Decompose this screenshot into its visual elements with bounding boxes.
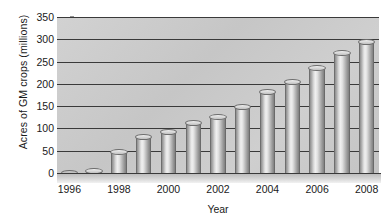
bar-body — [235, 107, 250, 173]
gridline — [57, 62, 379, 63]
bar-top-cap — [110, 149, 127, 155]
axis-base-shadow — [57, 174, 381, 183]
x-axis-line — [57, 173, 381, 174]
bar-top-cap — [234, 104, 251, 110]
bar — [111, 149, 126, 174]
x-tick-label: 2002 — [206, 183, 229, 195]
bar-body — [359, 42, 374, 173]
bar — [260, 89, 275, 173]
y-tick-label: 100 — [20, 122, 54, 134]
y-tick-label: 250 — [20, 56, 54, 68]
bar — [309, 65, 324, 173]
bar-body — [186, 123, 201, 173]
x-tick-label: 1996 — [58, 183, 81, 195]
bar-body — [136, 137, 151, 173]
gridline — [57, 17, 379, 18]
x-axis-label: Year — [55, 203, 381, 215]
y-tick-label: 350 — [20, 11, 54, 23]
x-tick-label: 2008 — [355, 183, 378, 195]
gridline — [57, 39, 379, 40]
gridline — [57, 84, 379, 85]
bar — [334, 50, 349, 173]
bar — [210, 114, 225, 173]
bar — [136, 134, 151, 173]
gridline — [57, 106, 379, 107]
y-axis-ticks: 050100150200250300350 — [20, 0, 54, 223]
bar-body — [285, 82, 300, 173]
bar — [359, 39, 374, 173]
bar — [161, 129, 176, 173]
y-tick-label: 0 — [20, 167, 54, 179]
bar-body — [309, 68, 324, 173]
bar-body — [161, 132, 176, 173]
bar — [285, 79, 300, 173]
y-tick-label: 50 — [20, 145, 54, 157]
bar — [186, 120, 201, 173]
x-tick-label: 2004 — [256, 183, 279, 195]
bar-chart: Acres of GM crops (millions) 05010015020… — [0, 0, 381, 223]
plot-area — [57, 17, 379, 173]
x-tick-label: 2006 — [305, 183, 328, 195]
x-tick-label: 1998 — [107, 183, 130, 195]
bar-body — [260, 92, 275, 173]
y-tick-label: 150 — [20, 100, 54, 112]
x-tick-label: 2000 — [157, 183, 180, 195]
bar-body — [111, 152, 126, 174]
bar-top-cap — [284, 79, 301, 85]
bar-body — [334, 53, 349, 173]
y-tick-label: 300 — [20, 33, 54, 45]
bar-top-cap — [135, 134, 152, 140]
y-tick-label: 200 — [20, 78, 54, 90]
bar-body — [210, 117, 225, 173]
bar — [235, 104, 250, 173]
